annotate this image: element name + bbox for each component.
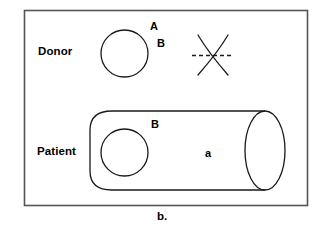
row-label-donor: Donor	[38, 46, 72, 58]
donor-antigen-b-label: B	[157, 38, 165, 49]
figure-border	[25, 11, 308, 206]
donor-antigen-a-label: A	[150, 21, 158, 32]
donor-cell-circle	[101, 30, 148, 77]
patient-cell-circle	[101, 129, 148, 176]
figure-container: Donor Patient A B B a b.	[0, 0, 330, 231]
patient-antibody-a-label: a	[205, 148, 211, 159]
row-label-patient: Patient	[37, 146, 76, 158]
figure-caption: b.	[157, 211, 167, 223]
patient-antigen-b-label: B	[151, 119, 159, 130]
diagram-canvas	[0, 0, 330, 231]
